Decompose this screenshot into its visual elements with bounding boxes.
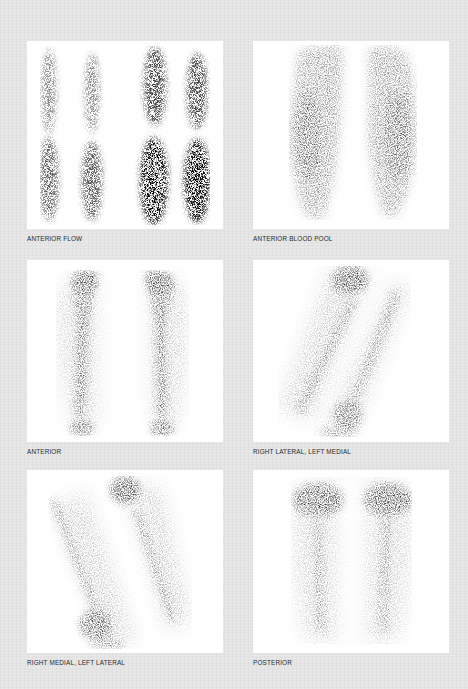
figure-anterior-flow: ANTERIOR FLOW <box>27 41 223 242</box>
figure-anterior: ANTERIOR <box>27 260 223 455</box>
scintigraphy-image <box>253 41 449 229</box>
scintigraphy-image <box>27 41 223 229</box>
scintigraphy-image <box>253 470 449 653</box>
scan-image-anterior-blood-pool <box>253 41 449 229</box>
caption-posterior: POSTERIOR <box>253 659 449 666</box>
figure-right-medial-left-lateral: RIGHT MEDIAL, LEFT LATERAL <box>27 470 223 666</box>
caption-right-medial-left-lateral: RIGHT MEDIAL, LEFT LATERAL <box>27 659 223 666</box>
caption-anterior-blood-pool: ANTERIOR BLOOD POOL <box>253 235 449 242</box>
scan-image-anterior-flow <box>27 41 223 229</box>
figure-right-lateral-left-medial: RIGHT LATERAL, LEFT MEDIAL <box>253 260 449 455</box>
scan-image-posterior <box>253 470 449 653</box>
caption-right-lateral-left-medial: RIGHT LATERAL, LEFT MEDIAL <box>253 448 449 455</box>
scan-image-right-medial-left-lateral <box>27 470 223 653</box>
scintigraphy-image <box>27 470 223 653</box>
figure-anterior-blood-pool: ANTERIOR BLOOD POOL <box>253 41 449 242</box>
scan-image-anterior <box>27 260 223 442</box>
figure-posterior: POSTERIOR <box>253 470 449 666</box>
scintigraphy-image <box>253 260 449 442</box>
caption-anterior-flow: ANTERIOR FLOW <box>27 235 223 242</box>
scintigraphy-image <box>27 260 223 442</box>
scan-image-right-lateral-left-medial <box>253 260 449 442</box>
caption-anterior: ANTERIOR <box>27 448 223 455</box>
